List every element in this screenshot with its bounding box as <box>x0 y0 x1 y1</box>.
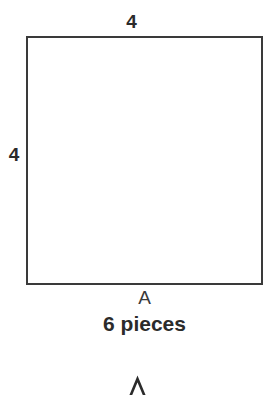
pieces-caption: 6 pieces <box>26 313 263 334</box>
left-dimension-label: 4 <box>6 145 22 164</box>
top-dimension-label: 4 <box>0 12 263 31</box>
figure-canvas: 4 4 A 6 pieces <box>0 0 270 395</box>
chevron-up-icon <box>0 372 270 395</box>
bottom-marker <box>0 372 270 395</box>
vertex-label-a: A <box>26 288 263 307</box>
square-shape <box>26 36 263 285</box>
